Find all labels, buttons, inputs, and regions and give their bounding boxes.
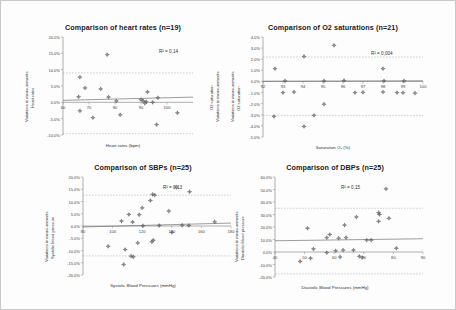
y-tick-label: -5.0% [29,116,60,121]
x-tick-label: 50 [302,255,307,260]
data-point [99,87,103,91]
y-axis-label-right-2: O2 saturation [210,65,215,131]
y-axis-label-line2: Heart rates [30,88,35,108]
x-tick-label: 98 [381,84,386,89]
data-point [325,235,329,239]
r-squared-annotation: R² = 0,004 [371,51,393,56]
plot-area: 4.0%3.0%2.0%1.0%0.0%-1.0%-2.0%-3.0%-4.0%… [263,37,423,137]
y-tick-label: -15.0% [49,260,80,265]
data-point [394,246,398,250]
data-point [151,100,155,104]
y-tick-label: 15.0% [49,187,80,192]
figure-page: Comparison of heart rates (n=19) Variati… [0,0,456,310]
y-tick-label: 15.0% [29,51,60,56]
x-tick-label: 140 [168,229,175,234]
data-point [302,54,306,58]
chart-panel-heart-rates: Comparison of heart rates (n=19) Variati… [23,23,223,161]
data-point [302,124,306,128]
data-point [148,198,152,202]
y-tick-label: 10.0% [241,237,272,242]
chart-panel-dbps: Comparison of DBPs (n=25) Variations in … [233,163,437,301]
x-tick-label: 92 [261,84,266,89]
chart-panel-o2-saturations: Comparison of O2 saturations (n=21) Vari… [229,23,437,161]
x-tick-label: 95 [321,84,326,89]
x-tick-label: 97 [361,84,366,89]
y-tick-label: 4.0% [229,35,260,40]
plot-svg [275,177,423,277]
data-point [154,122,158,126]
data-point [365,238,369,242]
x-tick-label: 100 [420,84,427,89]
data-point [311,247,315,251]
data-point [338,255,342,259]
r-squared-annotation: R² = 0,13 [163,185,182,190]
data-point [344,235,348,239]
x-tick-label: 70 [87,105,92,110]
y-tick-label: 10.0% [49,199,80,204]
plot-svg [83,177,231,275]
data-point [341,248,345,252]
data-point [342,78,346,82]
y-axis-label-line1: Variations in measurements [234,212,239,262]
y-tick-label: 20.0% [241,225,272,230]
y-tick-label: 3.0% [229,46,260,51]
x-tick-label: 90 [139,105,144,110]
chart-title: Comparison of SBPs (n=25) [43,163,243,172]
x-tick-label: 90 [421,255,426,260]
data-point [78,75,82,79]
y-axis-label-right-line1: Variations in measurements [215,72,220,122]
x-axis-label: Saturation O₂ (%) [229,145,437,150]
data-point [167,209,171,213]
trend-line [63,97,193,100]
y-tick-label: 0.0% [49,224,80,229]
data-point [127,212,131,216]
data-point [273,66,277,70]
y-axis-label-left: Variations in measurements [25,49,30,145]
y-axis-label-left: Variations in measurements [231,49,236,145]
x-tick-label: 70 [362,255,367,260]
data-point [381,90,385,94]
y-tick-label: -1.0% [229,90,260,95]
y-tick-label: 10.0% [29,67,60,72]
y-tick-label: 20.0% [49,175,80,180]
x-axis-label: Systolic Blood Pressures (mmHg) [43,283,243,288]
y-tick-label: 0.0% [229,79,260,84]
data-point [137,213,141,217]
y-tick-label: 0.0% [29,100,60,105]
x-tick-label: 120 [139,229,146,234]
y-axis-label-right: Variations in measurements [216,49,221,145]
y-axis-label-line1: Variations in measurements [24,72,29,122]
data-point [105,52,109,56]
data-point [175,111,179,115]
y-tick-label: 0.0% [241,250,272,255]
data-point [322,79,326,83]
r-squared-annotation: R² = 0,14 [159,49,178,54]
chart-title: Comparison of O2 saturations (n=21) [229,23,437,32]
r-squared-annotation: R² = 0,15 [341,185,360,190]
y-tick-label: 30.0% [241,212,272,217]
y-tick-label: -10.0% [29,133,60,138]
y-tick-label: 2.0% [229,57,260,62]
data-point [325,250,329,254]
data-point [382,79,386,83]
data-point [361,90,365,94]
data-point [377,212,381,216]
data-point [272,114,276,118]
data-point [76,95,80,99]
x-tick-label: 80 [391,255,396,260]
data-point [78,109,82,113]
y-tick-label: -4.0% [229,123,260,128]
data-point [140,206,144,210]
y-tick-label: -2.0% [229,101,260,106]
data-point [157,223,161,227]
data-point [401,91,405,95]
data-point [187,190,191,194]
data-point [83,86,87,90]
data-point [351,248,355,252]
y-tick-label: 40.0% [241,200,272,205]
data-point [387,216,391,220]
data-point [130,220,134,224]
data-point [384,187,388,191]
trend-line [275,239,423,241]
y-tick-label: -20.0% [49,273,80,278]
